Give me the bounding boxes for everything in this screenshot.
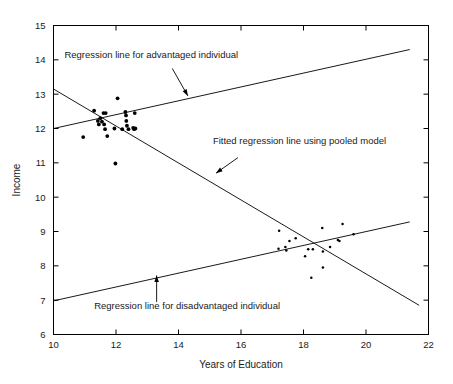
data-point — [338, 240, 341, 243]
data-point — [322, 250, 325, 253]
y-tick-label: 15 — [35, 20, 46, 31]
y-tick-label: 12 — [35, 123, 46, 134]
data-point — [103, 127, 107, 131]
data-point — [113, 162, 117, 166]
x-tick-label: 12 — [111, 339, 122, 350]
x-tick-label: 10 — [48, 339, 59, 350]
data-point — [125, 124, 129, 128]
y-tick-label: 9 — [40, 226, 45, 237]
y-tick-label: 6 — [40, 329, 45, 340]
data-point — [304, 255, 307, 258]
data-point — [105, 134, 109, 138]
x-tick-label: 22 — [423, 339, 434, 350]
data-point — [133, 111, 137, 115]
data-point — [98, 116, 102, 120]
data-point — [133, 127, 137, 131]
annotation-label-advantaged: Regression line for advantaged individua… — [64, 49, 238, 60]
data-point — [321, 227, 324, 230]
data-point — [310, 277, 313, 280]
data-point — [322, 266, 325, 269]
y-tick-label: 10 — [35, 192, 46, 203]
data-point — [102, 122, 106, 126]
data-point — [329, 246, 332, 249]
x-tick-label: 14 — [173, 339, 184, 350]
data-point — [285, 249, 288, 252]
scatter-plot-with-regression-lines: 10121416182022 6789101112131415 Regressi… — [0, 0, 453, 384]
x-tick-label: 18 — [298, 339, 309, 350]
annotation-label-disadvantaged: Regression line for disadvantaged indivi… — [94, 300, 280, 311]
y-tick-label: 11 — [36, 157, 46, 168]
data-point — [277, 247, 280, 250]
x-tick-label: 16 — [236, 339, 247, 350]
y-tick-label: 8 — [40, 260, 45, 271]
data-point — [123, 110, 127, 114]
data-point — [92, 109, 96, 113]
data-point — [341, 223, 344, 226]
data-point — [288, 240, 291, 243]
data-point — [81, 135, 85, 139]
data-point — [307, 248, 310, 251]
data-point — [312, 248, 315, 251]
y-tick-label: 7 — [40, 295, 45, 306]
x-axis-title: Years of Education — [199, 359, 283, 370]
data-point — [116, 96, 120, 100]
data-point — [294, 237, 297, 240]
data-point — [352, 233, 355, 236]
data-point — [97, 122, 101, 126]
data-point — [124, 114, 128, 118]
data-point — [113, 127, 117, 131]
x-tick-label: 20 — [361, 339, 372, 350]
figure-container: 10121416182022 6789101112131415 Regressi… — [0, 0, 453, 384]
y-tick-label: 14 — [35, 54, 46, 65]
annotation-label-pooled: Fitted regression line using pooled mode… — [213, 135, 386, 146]
data-point — [284, 246, 287, 249]
data-point — [127, 127, 131, 131]
y-tick-label: 13 — [35, 89, 46, 100]
data-point — [278, 230, 281, 233]
data-point — [120, 127, 124, 131]
data-point — [124, 119, 128, 123]
y-axis-title: Income — [11, 163, 22, 196]
data-point — [104, 111, 108, 115]
